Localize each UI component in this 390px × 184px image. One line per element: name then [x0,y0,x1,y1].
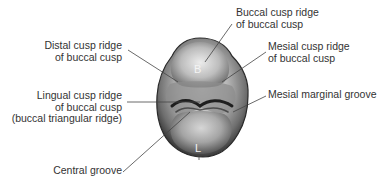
label-line: Buccal cusp ridge [236,7,319,19]
label-line: Mesial marginal groove [268,89,377,101]
label-line: of buccal cusp [268,53,350,65]
label-line: Lingual cusp ridge [12,90,122,102]
lingual-letter: L [195,142,201,154]
label-line: Distal cusp ridge [44,40,122,52]
label-central-groove: Central groove [53,165,122,177]
label-mesial-marginal-groove: Mesial marginal groove [268,89,377,101]
label-mesial-cusp-ridge: Mesial cusp ridge of buccal cusp [268,41,350,64]
label-lingual-cusp-ridge: Lingual cusp ridge of buccal cusp (bucca… [12,90,122,125]
label-line: of buccal cusp [44,52,122,64]
occlusal-table [166,81,236,113]
label-distal-cusp-ridge: Distal cusp ridge of buccal cusp [44,40,122,63]
tooth-diagram: B L Buccal cusp ridge of buccal cusp Dis… [0,0,390,184]
label-line: (buccal triangular ridge) [12,113,122,125]
label-line: of buccal cusp [236,19,319,31]
label-line: Central groove [53,165,122,177]
label-line: Mesial cusp ridge [268,41,350,53]
label-buccal-cusp-ridge: Buccal cusp ridge of buccal cusp [236,7,319,30]
buccal-letter: B [194,63,201,75]
